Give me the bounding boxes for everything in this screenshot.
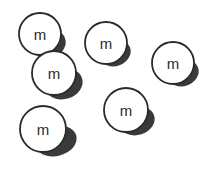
diagram-canvas: mmmmmm <box>0 0 216 177</box>
circle-bottom-left-outline <box>20 106 66 152</box>
circle-bottom-left-shape <box>0 76 96 177</box>
circle-bottom-middle-outline <box>104 88 148 132</box>
circle-bottom-left: m <box>0 76 96 177</box>
